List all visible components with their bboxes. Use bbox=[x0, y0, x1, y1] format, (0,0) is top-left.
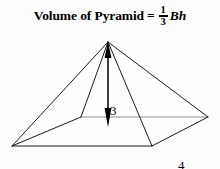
pyramid-figure: Volume of Pyramid = 1 3 Bh bbox=[0, 0, 220, 169]
lateral-edge-apex-front bbox=[108, 42, 152, 146]
formula-equals-sign: = bbox=[147, 8, 155, 24]
formula-variables: Bh bbox=[170, 8, 187, 24]
base-edge-left-back bbox=[12, 117, 81, 146]
lateral-edge-apex-left bbox=[12, 42, 108, 146]
lateral-edge-apex-back bbox=[81, 42, 108, 117]
fraction-denominator: 3 bbox=[161, 17, 166, 27]
base-edge-front-right bbox=[152, 117, 208, 146]
base-right-label: 4 bbox=[178, 159, 185, 169]
pyramid-svg bbox=[0, 28, 220, 169]
formula-lead-text: Volume of Pyramid bbox=[34, 8, 144, 24]
pyramid-diagram: 3 4 4 bbox=[0, 28, 220, 169]
formula-title: Volume of Pyramid = 1 3 Bh bbox=[0, 1, 220, 31]
fraction-one-third: 1 3 bbox=[159, 5, 168, 27]
lateral-edge-apex-right bbox=[108, 42, 208, 117]
height-label: 3 bbox=[110, 104, 117, 117]
fraction-numerator: 1 bbox=[161, 5, 166, 15]
